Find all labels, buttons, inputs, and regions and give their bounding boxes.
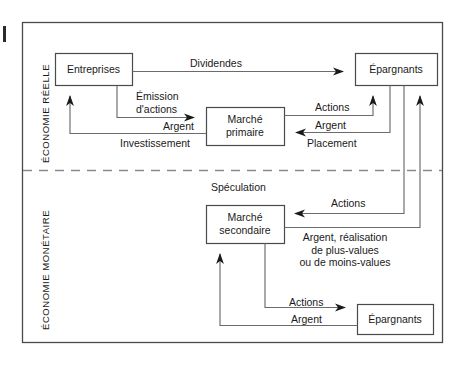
band-label-economie-reelle: ÉCONOMIE RÉELLE (40, 64, 51, 163)
edge-label-line: ou de moins-values (299, 256, 390, 268)
edge-label-line: d'actions (136, 103, 177, 115)
edge-label-line: de plus-values (311, 244, 379, 256)
node-marche-primaire (207, 108, 285, 146)
edge-label-actions-secondaire: Actions (331, 197, 365, 210)
edge-label-placement: Placement (307, 137, 357, 150)
edge-label-emission-actions: Émission d'actions (136, 90, 179, 115)
edge-label-speculation: Spéculation (211, 181, 266, 194)
node-epargnants-bas (358, 305, 434, 335)
node-entreprises (56, 54, 133, 86)
edge-label-actions-bas: Actions (289, 296, 323, 309)
band-label-economie-monetaire: ÉCONOMIE MONÉTAIRE (40, 210, 51, 330)
edge-label-line: Argent, réalisation (303, 231, 388, 243)
edge-label-actions-primaire: Actions (315, 101, 349, 114)
edge-label-line: Émission (136, 90, 179, 102)
edge-label-argent-investissement: Argent (163, 120, 194, 133)
edge-label-argent-realisation: Argent, réalisation de plus-values ou de… (285, 231, 405, 269)
node-marche-secondaire (207, 206, 285, 244)
edge-label-investissement: Investissement (120, 137, 190, 150)
edge-label-argent-bas: Argent (291, 313, 322, 326)
flow-actions-secondaire (295, 86, 404, 214)
node-epargnants-haut (356, 54, 438, 86)
edge-label-dividendes: Dividendes (186, 57, 246, 70)
diagram-canvas: ÉCONOMIE RÉELLE ÉCONOMIE MONÉTAIRE Entre… (0, 0, 455, 365)
edge-label-argent-placement: Argent (315, 119, 346, 132)
